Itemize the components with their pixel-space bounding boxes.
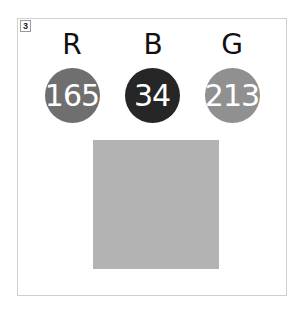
channel-value-circle-r: 165 [45,68,100,123]
channel-value-circle-b: 34 [125,68,180,123]
channel-value-b: 34 [134,78,170,113]
channel-value-r: 165 [45,78,99,113]
channel-label-g: G [212,30,252,60]
channel-value-circle-g: 213 [205,68,260,123]
color-swatch [93,140,219,269]
channel-value-g: 213 [205,78,259,113]
channel-label-b: B [133,30,173,60]
figure-number-badge: 3 [20,20,31,32]
channel-label-r: R [52,30,92,60]
